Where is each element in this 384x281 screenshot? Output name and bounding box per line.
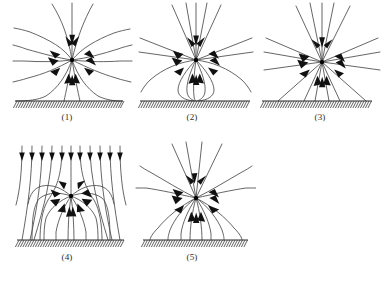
panel-2-caption: (2): [128, 112, 256, 122]
panel-4-caption: (4): [0, 252, 134, 262]
ground-hatching-1: [13, 101, 124, 108]
ground-2: [138, 101, 250, 108]
panel-1-caption: (1): [0, 112, 134, 122]
point-charge-4: [69, 194, 73, 198]
panel-5: (5): [128, 140, 256, 248]
field-lines-1: [13, 3, 132, 101]
point-charge-3: [320, 60, 324, 64]
panel-1: (1): [0, 0, 134, 108]
ground-5: [141, 240, 248, 247]
panel-3-svg: [256, 0, 384, 108]
panel-5-caption: (5): [128, 252, 256, 262]
panel-4-svg: [0, 140, 134, 248]
panel-3-caption: (3): [256, 112, 384, 122]
point-charge-5: [194, 196, 198, 200]
panel-4: (4): [0, 140, 134, 248]
ground-hatching-5: [141, 240, 247, 247]
panel-5-svg: [128, 140, 256, 248]
arrowheads-top-4: [19, 152, 123, 161]
panel-2-svg: [128, 0, 256, 108]
ground-hatching-3: [260, 101, 371, 108]
point-charge-2: [194, 58, 198, 62]
panel-1-svg: [0, 0, 134, 108]
panel-3: (3): [256, 0, 384, 108]
ground-3: [260, 101, 372, 108]
figure-sheet: (1): [0, 0, 384, 281]
panel-2: (2): [128, 0, 256, 108]
ground-hatching-2: [138, 101, 249, 108]
ground-hatching-4: [15, 240, 124, 247]
point-charge-1: [70, 58, 74, 62]
ground-4: [15, 240, 124, 247]
ground-1: [13, 101, 124, 108]
field-lines-5: [136, 142, 256, 240]
field-lines-2: [139, 3, 253, 101]
